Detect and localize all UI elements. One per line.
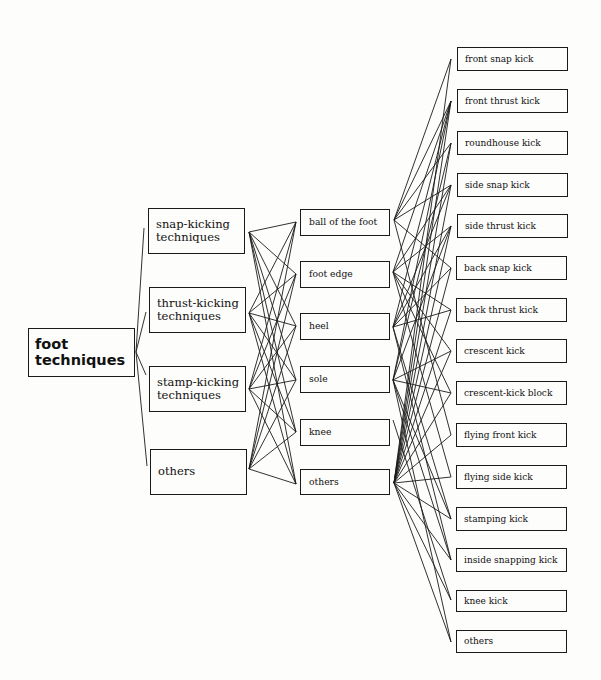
kick-node-knee-kick: knee kick — [456, 590, 567, 612]
root-node-foot-techniques: foot techniques — [28, 328, 135, 377]
body-part-node-sole: sole — [300, 366, 390, 393]
category-node-others: others — [150, 449, 247, 495]
category-node-thrust-kicking: thrust-kicking techniques — [149, 287, 246, 333]
kick-node-back-thrust: back thrust kick — [456, 298, 567, 322]
kick-node-flying-side: flying side kick — [456, 465, 567, 489]
body-part-node-others: others — [300, 469, 390, 495]
kick-node-back-snap: back snap kick — [456, 256, 567, 280]
kick-node-roundhouse: roundhouse kick — [457, 131, 568, 155]
body-part-node-heel: heel — [300, 313, 390, 340]
kick-node-inside-snapping: inside snapping kick — [456, 548, 567, 572]
kick-node-crescent: crescent kick — [456, 339, 567, 363]
kick-node-flying-front: flying front kick — [456, 423, 567, 447]
kick-node-side-thrust: side thrust kick — [457, 214, 568, 238]
body-part-node-foot-edge: foot edge — [300, 261, 390, 288]
category-node-stamp-kicking: stamp-kicking techniques — [149, 366, 246, 412]
kick-node-others: others — [456, 630, 567, 653]
category-node-snap-kicking: snap-kicking techniques — [148, 208, 245, 254]
body-part-node-knee: knee — [300, 419, 390, 446]
kick-node-front-snap: front snap kick — [457, 47, 568, 71]
kick-node-front-thrust: front thrust kick — [457, 89, 568, 113]
kick-node-crescent-kick-block: crescent-kick block — [456, 381, 567, 405]
foot-techniques-diagram: foot techniques snap-kicking techniques … — [0, 0, 601, 680]
kick-node-stamping: stamping kick — [456, 507, 567, 531]
body-part-node-ball-of-foot: ball of the foot — [300, 209, 390, 236]
kick-node-side-snap: side snap kick — [457, 173, 568, 197]
